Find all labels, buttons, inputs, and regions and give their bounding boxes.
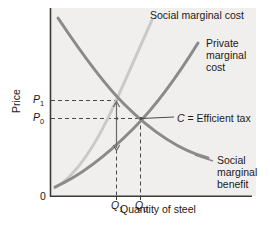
y-marker-p1: P1 [33,93,44,109]
x-marker-q0: Q0 [135,199,147,215]
label-social-marginal-cost: Social marginal cost [150,9,244,21]
curve-social-marginal-benefit [58,18,208,158]
label-private-line-3: cost [206,61,246,73]
efficient-tax-symbol: C [177,112,185,124]
curve-social-marginal-cost [55,20,152,188]
x-axis-title: Quantity of steel [120,203,196,215]
label-benefit-line-2: marginal [217,166,257,178]
origin-label: 0 [40,190,46,202]
label-efficient-tax: C = Efficient tax [177,112,251,124]
label-benefit-line-1: Social [217,154,257,166]
label-private-marginal-cost: Private marginal cost [206,37,246,73]
label-social-marginal-benefit: Social marginal benefit [217,154,257,190]
label-benefit-line-3: benefit [217,178,257,190]
label-private-line-1: Private [206,37,246,49]
y-marker-p0: P0 [33,111,44,127]
chart-figure: Price Quantity of steel 0 P1 P0 Q1 Q0 So… [0,0,270,237]
y-axis-title: Price [10,71,22,131]
efficient-tax-text: = Efficient tax [185,112,251,124]
x-marker-q1: Q1 [111,199,123,215]
label-private-line-2: marginal [206,49,246,61]
